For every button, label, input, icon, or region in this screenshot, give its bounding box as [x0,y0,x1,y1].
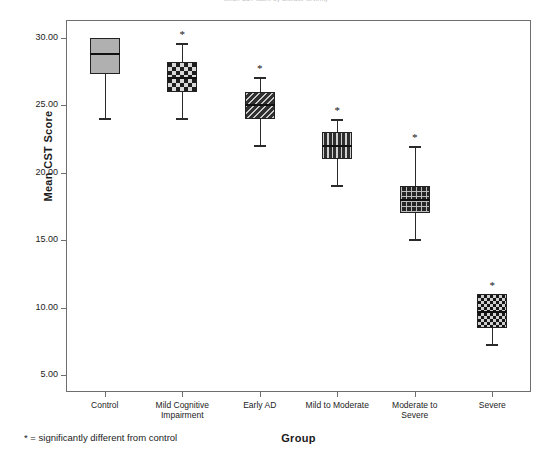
y-axis-tick-mark [61,105,66,106]
whisker-lower [415,213,416,240]
whisker-lower [337,159,338,186]
whisker-cap-lower [254,145,266,147]
whisker-cap-upper [176,43,188,45]
whisker-cap-lower [331,185,343,187]
whisker-cap-upper [331,119,343,121]
x-axis-tick-label: Mild Cognitive Impairment [137,400,227,420]
y-axis-tick-label: 5.00 [12,369,58,379]
y-axis-tick-label: 15.00 [12,234,58,244]
x-axis-tick-mark [337,392,338,397]
y-axis-tick-label: 25.00 [12,99,58,109]
whisker-cap-lower [99,118,111,120]
whisker-cap-lower [409,239,421,241]
significance-star: * [327,106,347,114]
x-axis-tick-label: Early AD [215,400,305,410]
median-line [167,77,197,79]
x-axis-tick-label: Severe [447,400,537,410]
whisker-upper [337,119,338,132]
y-axis-tick-mark [61,173,66,174]
plot-area [66,20,531,392]
box-rect [90,38,120,74]
median-line [477,311,507,313]
significance-star: * [172,30,192,38]
y-axis-tick-mark [61,308,66,309]
significance-star: * [250,64,270,72]
whisker-lower [182,92,183,119]
whisker-lower [492,328,493,346]
median-line [90,53,120,55]
y-axis-tick-label: 20.00 [12,167,58,177]
whisker-cap-upper [409,146,421,148]
chart-title: Mean CST score by disease severity [0,0,552,2]
x-axis-tick-mark [492,392,493,397]
significance-star: * [405,133,425,141]
whisker-upper [182,43,183,62]
x-axis-tick-label: Moderate to Severe [370,400,460,420]
whisker-lower [260,119,261,146]
y-axis-tick-mark [61,240,66,241]
x-axis-tick-mark [182,392,183,397]
whisker-cap-lower [176,118,188,120]
significance-star: * [482,281,502,289]
median-line [322,145,352,147]
median-line [245,104,275,106]
median-line [400,199,430,201]
y-axis-tick-mark [61,38,66,39]
y-axis-tick-mark [61,375,66,376]
x-axis-tick-mark [260,392,261,397]
whisker-cap-upper [254,77,266,79]
footnote: * = significantly different from control [24,432,177,443]
whisker-lower [105,74,106,118]
y-axis-tick-label: 30.00 [12,32,58,42]
box-plot-figure: Mean CST score by disease severity Mean … [0,0,552,460]
whisker-upper [260,77,261,92]
whisker-upper [415,146,416,186]
whisker-cap-lower [486,344,498,346]
y-axis-tick-label: 10.00 [12,302,58,312]
x-axis-tick-label: Mild to Moderate [292,400,382,410]
x-axis-tick-label: Control [60,400,150,410]
x-axis-tick-mark [105,392,106,397]
x-axis-tick-mark [415,392,416,397]
